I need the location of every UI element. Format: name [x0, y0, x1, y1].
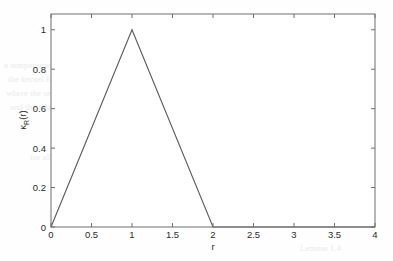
y-tick-label: 0.6	[33, 103, 46, 114]
x-tick-label: 3.5	[328, 229, 341, 240]
x-tick-label: 0	[48, 229, 53, 240]
x-tick-label: 2.5	[247, 229, 260, 240]
chart-plot: 00.511.522.533.54 00.20.40.60.81 r κR(r)	[0, 0, 393, 261]
y-tick-label: 1	[41, 24, 46, 35]
y-tick-label: 0.4	[33, 143, 46, 154]
x-tick-label: 0.5	[85, 229, 98, 240]
x-axis-tick-labels: 00.511.522.533.54	[48, 229, 377, 240]
y-tick-label: 0.2	[33, 182, 46, 193]
y-tick-label: 0	[41, 222, 46, 233]
x-tick-label: 1.5	[166, 229, 179, 240]
plot-background	[51, 14, 375, 227]
x-tick-label: 1	[129, 229, 134, 240]
y-axis-title-suffix: (r)	[17, 110, 28, 120]
y-axis-tick-labels: 00.20.40.60.81	[33, 24, 46, 232]
svg-text:κR(r): κR(r)	[17, 110, 30, 129]
y-tick-label: 0.8	[33, 64, 46, 75]
x-axis-title: r	[211, 241, 214, 252]
x-tick-label: 2	[210, 229, 215, 240]
x-tick-label: 3	[291, 229, 296, 240]
x-tick-label: 4	[372, 229, 377, 240]
y-axis-title: κR(r)	[17, 110, 30, 129]
figure-canvas: Bernoulli Couplinga nonparametric copula…	[0, 0, 393, 261]
